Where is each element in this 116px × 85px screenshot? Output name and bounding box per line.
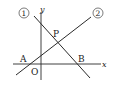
point-p-label: P [53, 29, 59, 39]
y-axis-label: y [39, 5, 45, 14]
origin-label: O [31, 67, 38, 77]
x-axis-label: x [102, 60, 107, 69]
line-1-label: 1 [19, 8, 29, 18]
point-b-label: B [78, 54, 85, 64]
line-1 [34, 16, 90, 78]
point-a-label: A [19, 54, 27, 64]
line-2-label-text: 2 [96, 9, 101, 18]
coordinate-diagram: 1 2 y x O P A B [0, 0, 116, 85]
line-1-label-text: 1 [22, 9, 27, 18]
line-2-label: 2 [93, 8, 103, 18]
